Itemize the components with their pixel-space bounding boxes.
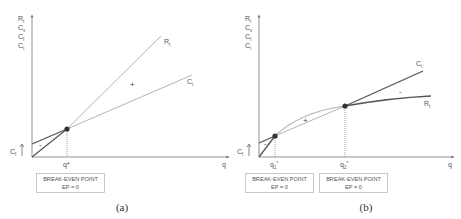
break-even-diagrams: Rt Cv Cf Ct Rt Ct + - Cf q* q BREAK-EVEN… — [0, 0, 461, 219]
panel-a-fixed-cost-label: Cf — [10, 148, 17, 157]
svg-text:Ct: Ct — [18, 42, 25, 51]
panel-b-loss-sign-right: - — [399, 87, 402, 96]
panel-b-x-axis-label: q — [448, 161, 452, 169]
panel-b-box1-line1: BREAK-EVEN POINT — [252, 176, 307, 182]
panel-b-cost-line-profit — [275, 106, 345, 136]
panel-b-fixed-cost-label: Cf — [237, 148, 244, 157]
panel-b-box2-line1: BREAK-EVEN POINT — [326, 176, 381, 182]
panel-b-revenue-curve-loss — [345, 96, 431, 106]
panel-a-cost-label: Ct — [187, 78, 194, 87]
panel-a-x-axis-label: q — [222, 161, 226, 169]
panel-a-q-star-label: q* — [63, 161, 70, 169]
svg-text:Cv: Cv — [245, 24, 253, 33]
panel-b-q1-star-label: q1* — [270, 161, 278, 170]
panel-b-revenue-label: Rt — [424, 100, 431, 109]
panel-b-profit-sign: + — [303, 116, 308, 125]
panel-a-cost-line-loss — [32, 129, 67, 144]
panel-b-caption: (b) — [360, 201, 373, 214]
panel-a-revenue-label: Rt — [164, 38, 171, 47]
svg-text:Rt: Rt — [245, 15, 252, 24]
panel-b-cost-label: Ct — [416, 60, 423, 69]
svg-text:Cf: Cf — [245, 33, 252, 42]
panel-a-profit-sign: + — [130, 80, 135, 89]
panel-b-y-axis-labels: Rt Cv Cf Ct — [245, 15, 253, 51]
panel-a: Rt Cv Cf Ct Rt Ct + - Cf q* q BREAK-EVEN… — [10, 15, 228, 214]
panel-b-break-even-point-2 — [342, 103, 347, 108]
panel-a-box-line1: BREAK-EVEN POINT — [43, 176, 98, 182]
svg-text:Ct: Ct — [245, 42, 252, 51]
svg-text:Cv: Cv — [18, 24, 26, 33]
panel-a-caption: (a) — [116, 201, 129, 214]
panel-b-break-even-point-1 — [272, 133, 277, 138]
panel-a-revenue-line-loss — [32, 129, 67, 157]
panel-a-box-line2: EP = 0 — [62, 184, 79, 190]
panel-b: Rt Cv Cf Ct Ct Rt + - - Cf q1* q2* q BRE… — [237, 15, 453, 214]
panel-a-break-even-point — [64, 126, 69, 131]
panel-b-box2-line2: EP = 0 — [345, 184, 362, 190]
svg-text:Rt: Rt — [18, 15, 25, 24]
svg-text:Cf: Cf — [18, 33, 25, 42]
panel-a-revenue-line-profit — [67, 36, 161, 129]
panel-b-q2-star-label: q2* — [340, 161, 348, 170]
panel-a-y-axis-labels: Rt Cv Cf Ct — [18, 15, 26, 51]
panel-b-loss-sign-left: - — [264, 139, 267, 148]
panel-a-loss-sign: - — [39, 140, 42, 149]
panel-b-box1-line2: EP = 0 — [271, 184, 288, 190]
